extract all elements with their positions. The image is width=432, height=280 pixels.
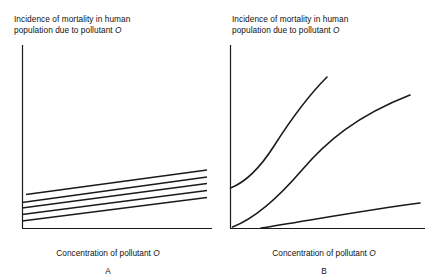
panel-b-plot: [216, 0, 432, 245]
panel-a-series-line-2: [22, 177, 207, 203]
panel-a-series-line-4: [22, 191, 207, 215]
pollutant-symbol: O: [369, 248, 375, 258]
panel-a-series-line-1: [26, 170, 207, 195]
panel-b-series-line-shallow: [261, 203, 420, 228]
panel-b-series-curve-steep: [231, 77, 328, 188]
panel-b-x-axis-label-text: Concentration of pollutant: [272, 248, 369, 258]
panel-b-letter: B: [216, 266, 432, 276]
figure-dose-response: Incidence of mortality in human populati…: [0, 0, 432, 280]
pollutant-symbol: O: [153, 248, 159, 258]
panel-b-x-axis-label: Concentration of pollutant O: [216, 248, 432, 258]
panel-a-letter: A: [0, 266, 216, 276]
panel-a-series-line-5: [22, 198, 207, 222]
panel-b: Incidence of mortality in human populati…: [216, 0, 432, 280]
panel-a-x-axis-label-text: Concentration of pollutant: [56, 248, 153, 258]
panel-a-x-axis-label: Concentration of pollutant O: [0, 248, 216, 258]
panel-a-series-line-3: [22, 184, 207, 209]
panel-b-series-curve-middle: [233, 95, 411, 227]
panel-a-plot: [0, 0, 216, 245]
panel-a: Incidence of mortality in human populati…: [0, 0, 216, 280]
